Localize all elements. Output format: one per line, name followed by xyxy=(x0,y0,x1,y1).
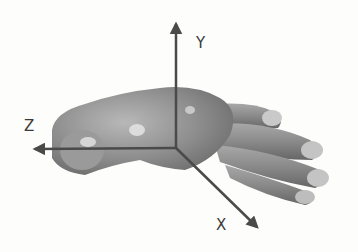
z-axis xyxy=(35,148,176,149)
x-axis-label: X xyxy=(216,218,226,233)
y-axis-label: Y xyxy=(196,36,205,51)
hand-model-illustration xyxy=(0,0,358,252)
palm xyxy=(52,87,233,175)
hand-axes-figure: Y Z X xyxy=(0,0,358,252)
z-axis-label: Z xyxy=(24,119,34,134)
